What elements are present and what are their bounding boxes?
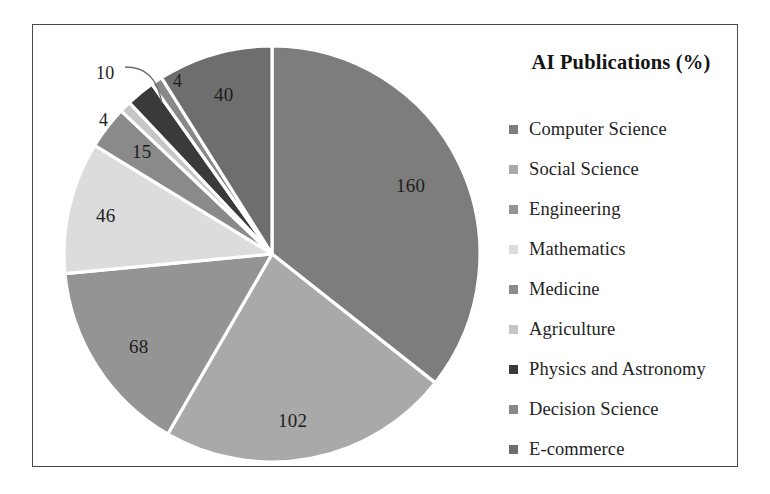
- legend-item[interactable]: Physics and Astronomy: [509, 349, 739, 389]
- legend-item-label: Decision Science: [529, 399, 659, 420]
- legend-swatch-icon: [509, 285, 518, 294]
- legend-swatch-icon: [509, 405, 518, 414]
- legend-item[interactable]: Agriculture: [509, 309, 739, 349]
- legend-swatch-icon: [509, 365, 518, 374]
- legend-item-label: Agriculture: [529, 319, 615, 340]
- legend-swatch-icon: [509, 205, 518, 214]
- legend-swatch-icon: [509, 325, 518, 334]
- pie-chart-svg: [33, 25, 493, 468]
- legend-item[interactable]: Computer Science: [509, 109, 739, 149]
- legend-item-label: Computer Science: [529, 119, 667, 140]
- legend-item-label: Mathematics: [529, 239, 626, 260]
- chart-frame: 160 102 68 46 15 4 10 4 40 AI Publicatio…: [32, 24, 738, 467]
- pie-slice-label-decision-science: 4: [173, 71, 182, 92]
- pie-slice-label-physics-and-astronomy: 10: [96, 63, 115, 84]
- legend-item-label: Physics and Astronomy: [529, 359, 706, 380]
- legend-swatch-icon: [509, 245, 518, 254]
- pie-slice-label-engineering: 68: [129, 336, 149, 358]
- pie-chart-area: 160 102 68 46 15 4 10 4 40: [33, 25, 493, 468]
- legend-item[interactable]: Engineering: [509, 189, 739, 229]
- legend-items-list: Computer ScienceSocial ScienceEngineerin…: [509, 109, 739, 469]
- legend-item[interactable]: Decision Science: [509, 389, 739, 429]
- pie-slice-label-medicine: 15: [132, 141, 152, 163]
- legend-item[interactable]: Mathematics: [509, 229, 739, 269]
- legend-item[interactable]: E-commerce: [509, 429, 739, 469]
- legend: AI Publications (%) Computer ScienceSoci…: [495, 25, 739, 468]
- legend-item[interactable]: Medicine: [509, 269, 739, 309]
- pie-slice-label-computer-science: 160: [396, 175, 425, 197]
- pie-slice-label-e-commerce: 40: [214, 84, 234, 106]
- pie-slice-label-mathematics: 46: [96, 205, 116, 227]
- legend-swatch-icon: [509, 125, 518, 134]
- legend-swatch-icon: [509, 445, 518, 454]
- legend-item-label: E-commerce: [529, 439, 625, 460]
- legend-item-label: Engineering: [529, 199, 621, 220]
- pie-slice-label-social-science: 102: [278, 410, 307, 432]
- legend-title: AI Publications (%): [507, 51, 735, 74]
- legend-item-label: Social Science: [529, 159, 639, 180]
- legend-item[interactable]: Social Science: [509, 149, 739, 189]
- legend-swatch-icon: [509, 165, 518, 174]
- pie-slice-label-agriculture: 4: [99, 110, 108, 131]
- legend-item-label: Medicine: [529, 279, 600, 300]
